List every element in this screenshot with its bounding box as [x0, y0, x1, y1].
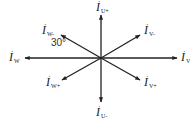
label-subscript: U-	[101, 113, 107, 119]
vector-label-w-minus: ·IW-	[42, 24, 54, 37]
vector-label-u-plus: ·IU+	[96, 1, 109, 14]
dot-accent: ·	[11, 48, 14, 56]
vector-label-v-plus: ·IV+	[144, 76, 157, 89]
dot-accent: ·	[146, 73, 149, 81]
dot-accent: ·	[98, 103, 101, 111]
label-subscript: V	[186, 58, 190, 64]
vector-v-plus	[101, 58, 140, 80]
vector-label-v-minus: ·IV-	[144, 24, 155, 37]
label-subscript: V-	[149, 31, 155, 37]
vector-label-u-minus: ·IU-	[96, 106, 107, 119]
dot-accent: ·	[98, 0, 101, 6]
vector-label-v: ·IV	[181, 51, 190, 64]
dot-accent: ·	[48, 73, 51, 81]
vector-v-minus	[101, 35, 140, 58]
angle-label: 30°	[51, 37, 66, 48]
vector-w-plus	[62, 58, 101, 80]
dot-accent: ·	[183, 48, 186, 56]
vector-label-w-plus: ·IW+	[46, 76, 60, 89]
label-subscript: U+	[101, 8, 109, 14]
label-subscript: V+	[149, 83, 157, 89]
dot-accent: ·	[44, 21, 47, 29]
dot-accent: ·	[146, 21, 149, 29]
label-subscript: W+	[51, 83, 60, 89]
vector-w-minus	[61, 35, 101, 58]
label-subscript: W	[14, 58, 20, 64]
vector-label-w: ·IW	[9, 51, 20, 64]
